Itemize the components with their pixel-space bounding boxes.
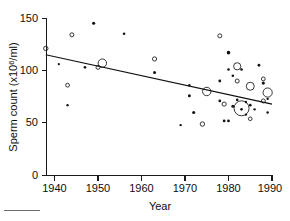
data-point bbox=[253, 108, 255, 110]
data-point bbox=[262, 82, 265, 85]
y-tick-label-100: 100 bbox=[20, 64, 38, 76]
data-point bbox=[218, 34, 222, 38]
data-point bbox=[249, 104, 252, 107]
x-axis-title: Year bbox=[149, 200, 172, 212]
data-point bbox=[263, 88, 272, 97]
x-tick-label-1970: 1970 bbox=[173, 182, 197, 194]
data-point bbox=[153, 71, 156, 74]
data-point bbox=[218, 100, 221, 103]
chart-canvas: 150 100 50 0 1940 1950 1960 1970 1980 19… bbox=[0, 0, 290, 221]
data-point bbox=[44, 46, 48, 50]
data-point bbox=[188, 84, 190, 86]
data-point bbox=[218, 80, 221, 83]
data-point bbox=[235, 79, 239, 83]
y-tick-label-50: 50 bbox=[26, 116, 38, 128]
data-point bbox=[92, 22, 95, 25]
data-point bbox=[70, 33, 74, 37]
y-tick-label-150: 150 bbox=[20, 12, 38, 24]
data-point bbox=[240, 68, 243, 71]
scatter-points-layer bbox=[44, 22, 273, 127]
data-point bbox=[152, 57, 156, 61]
data-point bbox=[84, 66, 87, 69]
x-tick-label-1940: 1940 bbox=[42, 182, 66, 194]
data-point bbox=[66, 104, 68, 106]
scatter-plot-figure: 150 100 50 0 1940 1950 1960 1970 1980 19… bbox=[0, 0, 290, 221]
y-axis-title: Sperm count (x106/ml) bbox=[7, 42, 20, 151]
data-point bbox=[222, 102, 226, 106]
data-point bbox=[200, 122, 204, 126]
x-tick-label-1950: 1950 bbox=[86, 182, 110, 194]
data-point bbox=[258, 64, 261, 67]
data-point bbox=[248, 117, 252, 121]
data-point bbox=[246, 82, 254, 90]
data-point bbox=[227, 120, 230, 123]
x-tick-label-1980: 1980 bbox=[216, 182, 240, 194]
data-point bbox=[66, 83, 70, 87]
data-point bbox=[232, 74, 235, 77]
y-axis-title-suffix: /ml) bbox=[7, 42, 19, 60]
data-point bbox=[188, 94, 191, 97]
data-point bbox=[234, 63, 241, 70]
y-tick-label-0: 0 bbox=[32, 169, 38, 181]
data-point bbox=[58, 63, 60, 65]
x-tick-label-1990: 1990 bbox=[258, 182, 282, 194]
data-point bbox=[227, 68, 230, 71]
data-point bbox=[245, 113, 247, 115]
data-point bbox=[245, 101, 247, 103]
data-point bbox=[179, 124, 181, 126]
data-point bbox=[123, 32, 126, 35]
data-point bbox=[227, 51, 231, 55]
data-point bbox=[266, 111, 268, 113]
data-point bbox=[192, 111, 195, 114]
x-tick-label-1960: 1960 bbox=[129, 182, 153, 194]
y-axis-title-prefix: Sperm count (x10 bbox=[7, 65, 19, 152]
data-point bbox=[240, 108, 243, 111]
data-point bbox=[261, 77, 265, 81]
data-point bbox=[236, 99, 239, 102]
data-point bbox=[203, 87, 211, 95]
data-point bbox=[266, 98, 268, 100]
data-point bbox=[98, 59, 106, 67]
data-point bbox=[223, 120, 226, 123]
